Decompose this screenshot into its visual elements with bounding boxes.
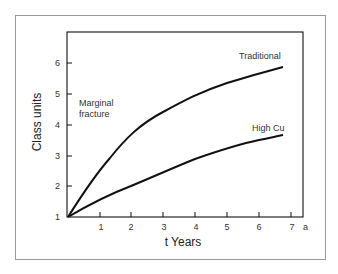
y-tick-label: 3 [55, 151, 60, 161]
high-cu-curve [68, 135, 283, 217]
y-tick-label: 2 [55, 181, 60, 191]
x-tick-label: 2 [128, 222, 133, 232]
y-axis [67, 63, 72, 186]
high-cu-label: High Cu [252, 123, 285, 133]
x-tick-label: 7 [289, 222, 294, 232]
x-tick-label: 4 [193, 222, 198, 232]
x-axis [100, 212, 291, 217]
chart: 1 2 3 4 5 6 1 2 3 4 5 6 7 a t Years Clas… [0, 0, 338, 274]
y-tick-label: 6 [55, 58, 60, 68]
x-tick-label: 1 [98, 222, 103, 232]
x-unit-label: a [303, 222, 308, 232]
y-tick-labels: 1 2 3 4 5 6 [55, 58, 60, 222]
marginal-fracture-label-line2: fracture [79, 109, 110, 119]
y-tick-label: 4 [55, 120, 60, 130]
y-tick-label: 5 [55, 89, 60, 99]
x-tick-label: 3 [161, 222, 166, 232]
y-tick-label: 1 [55, 212, 60, 222]
x-tick-label: 6 [256, 222, 261, 232]
marginal-fracture-label-line1: Marginal [79, 98, 114, 108]
x-axis-title: t Years [165, 235, 202, 249]
traditional-label: Traditional [239, 51, 281, 61]
y-axis-title: Class units [30, 93, 44, 152]
x-tick-label: 5 [224, 222, 229, 232]
x-tick-labels: 1 2 3 4 5 6 7 [98, 222, 294, 232]
